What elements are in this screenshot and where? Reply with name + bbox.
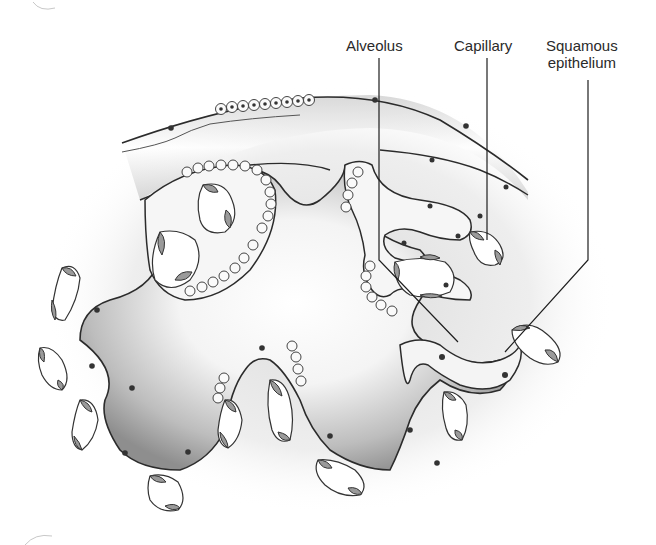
corner-arc-top — [33, 2, 55, 9]
alveolar-tissue-diagram — [0, 0, 656, 545]
corner-arc-bottom — [25, 535, 52, 545]
